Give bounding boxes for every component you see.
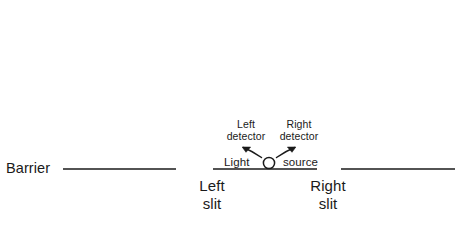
- right-detector-label-line2: detector: [280, 130, 319, 142]
- diagram-canvas: Barrier Leftdetector Rightdetector Light…: [0, 0, 475, 226]
- left-slit-label-line1: Left: [199, 177, 224, 194]
- right-slit-label: Rightslit: [300, 177, 356, 212]
- light-source-label-left-word: Light: [224, 156, 249, 170]
- right-slit-label-line2: slit: [319, 195, 338, 212]
- right-slit-label-line1: Right: [310, 177, 346, 194]
- right-detector-label: Rightdetector: [272, 118, 326, 143]
- light-source-label-right-word: source: [283, 156, 318, 170]
- barrier-label: Barrier: [6, 160, 50, 177]
- left-detector-label-line1: Left: [237, 118, 255, 130]
- left-slit-label: Leftslit: [186, 177, 238, 212]
- left-slit-label-line2: slit: [203, 195, 222, 212]
- light-source-circle-icon: [263, 157, 274, 168]
- right-detector-label-line1: Right: [286, 118, 311, 130]
- left-detector-label-line2: detector: [227, 130, 266, 142]
- left-detector-label: Leftdetector: [220, 118, 272, 143]
